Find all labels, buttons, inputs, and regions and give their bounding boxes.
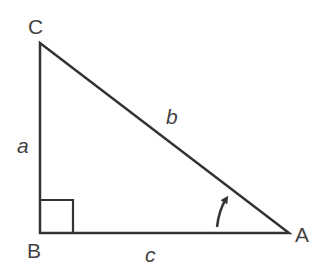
triangle-shape <box>40 43 289 233</box>
angle-arrow-icon <box>217 199 226 227</box>
side-label-a: a <box>17 134 29 157</box>
vertex-label-b: B <box>27 239 41 262</box>
side-label-c: c <box>145 243 156 266</box>
side-label-b: b <box>166 105 178 128</box>
vertex-label-a: A <box>295 223 309 246</box>
vertex-label-c: C <box>28 15 43 38</box>
right-triangle-diagram: C B A a b c <box>0 0 329 277</box>
right-angle-marker <box>40 200 73 233</box>
